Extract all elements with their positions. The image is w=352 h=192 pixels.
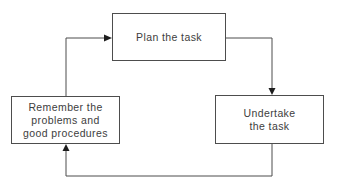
arrow-plan-to-undertake [226,38,272,88]
node-remember-problems-procedures-label: Remember the problems and good procedure… [23,101,108,140]
node-undertake-the-task: Undertake the task [215,95,324,144]
arrow-remember-to-plan [66,38,104,96]
arrow-undertake-to-remember [66,144,272,176]
node-plan-the-task: Plan the task [112,13,226,61]
node-undertake-the-task-label: Undertake the task [243,107,295,133]
arrowhead-plan-to-undertake-down-icon [269,88,276,95]
node-plan-the-task-label: Plan the task [136,31,202,44]
arrowhead-undertake-to-remember-up-icon [63,144,70,151]
flow-diagram: Plan the task Undertake the task Remembe… [0,0,352,192]
arrowhead-remember-to-plan-right-icon [104,35,112,42]
node-remember-problems-procedures: Remember the problems and good procedure… [11,96,120,144]
